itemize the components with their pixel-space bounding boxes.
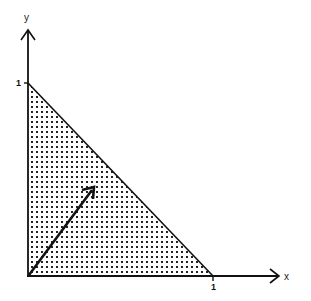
- x-axis-label: x: [284, 271, 289, 282]
- x-tick-1: 1: [211, 282, 216, 292]
- y-axis-label: y: [24, 12, 29, 23]
- y-tick-1: 1: [16, 78, 21, 88]
- diagram-canvas: y 1 x 1: [0, 0, 311, 301]
